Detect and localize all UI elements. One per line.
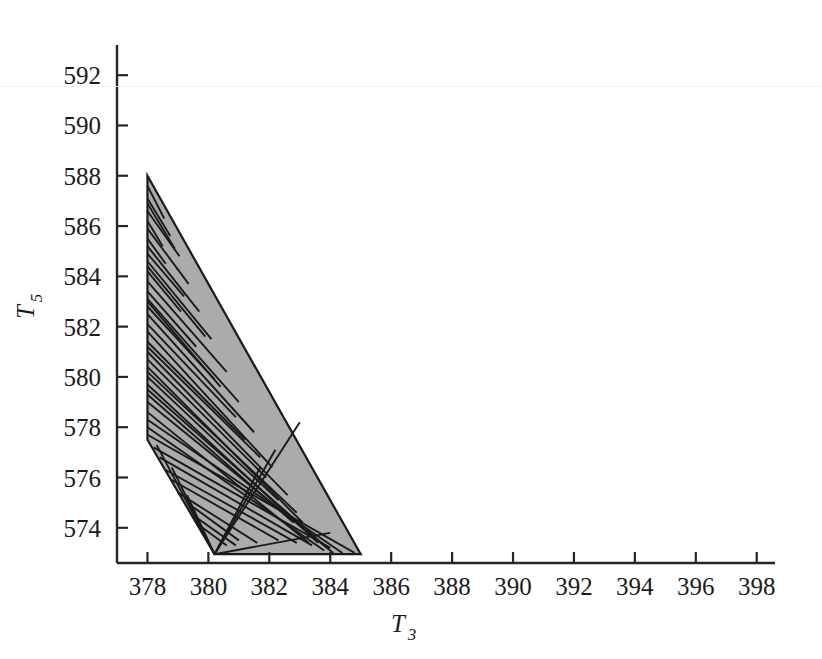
x-tick-label-384: 384	[311, 573, 349, 600]
x-tick-label-382: 382	[251, 573, 289, 600]
y-tick-label-576: 576	[64, 465, 102, 492]
y-tick-label-588: 588	[64, 163, 102, 190]
y-axis-title-base: T	[12, 303, 39, 319]
y-axis-title-subscript: 5	[27, 294, 46, 303]
x-axis-title: T 3	[391, 610, 416, 644]
x-tick-label-380: 380	[190, 573, 228, 600]
x-tick-label-388: 388	[433, 573, 471, 600]
x-tick-label-386: 386	[372, 573, 410, 600]
y-tick-label-586: 586	[64, 213, 102, 240]
x-axis-title-subscript: 3	[407, 625, 417, 644]
figure-canvas: 378380382384386388390392394396398 574576…	[0, 0, 822, 659]
y-tick-label-590: 590	[64, 112, 102, 139]
y-tick-label-580: 580	[64, 364, 102, 391]
y-tick-label-578: 578	[64, 414, 102, 441]
x-tick-label-394: 394	[616, 573, 654, 600]
y-tick-labels: 574576578580582584586588590592	[64, 62, 102, 542]
y-tick-label-574: 574	[64, 515, 102, 542]
x-tick-label-396: 396	[677, 573, 715, 600]
y-tick-label-582: 582	[64, 314, 102, 341]
x-tick-label-378: 378	[129, 573, 167, 600]
chart-plot-area: 378380382384386388390392394396398 574576…	[0, 0, 822, 659]
y-axis-title: T 5	[12, 294, 46, 319]
x-tick-label-392: 392	[555, 573, 593, 600]
x-tick-label-390: 390	[494, 573, 532, 600]
scan-artifact-line	[0, 86, 822, 87]
x-tick-labels: 378380382384386388390392394396398	[129, 573, 776, 600]
x-axis-title-base: T	[391, 610, 407, 637]
x-tick-label-398: 398	[738, 573, 776, 600]
y-tick-label-584: 584	[64, 263, 102, 290]
